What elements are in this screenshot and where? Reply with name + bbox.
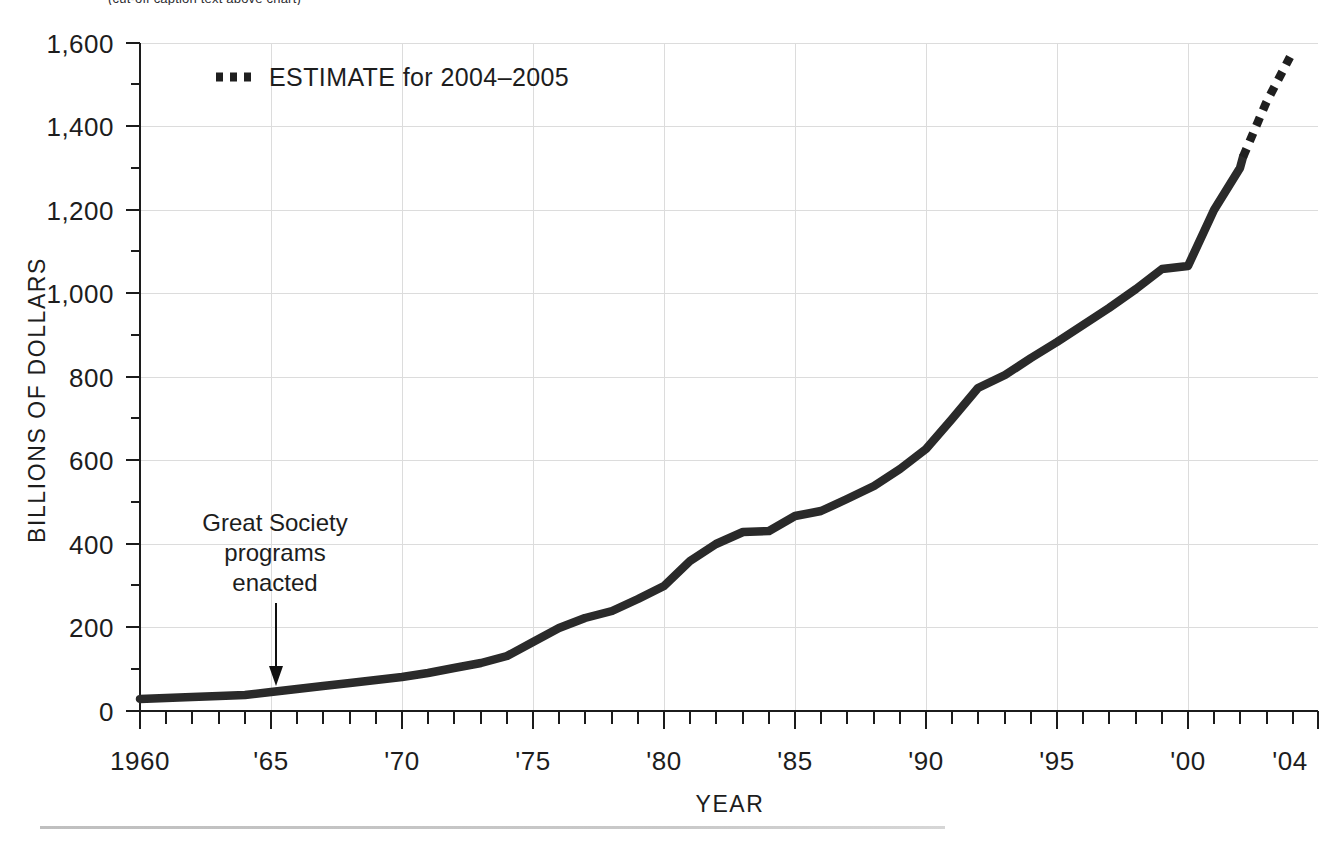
x-tick-label-75: '75 xyxy=(515,746,550,776)
chart-legend: ESTIMATE for 2004–2005 xyxy=(216,63,569,91)
y-tick-label-1200: 1,200 xyxy=(46,196,114,226)
y-axis-major-ticks xyxy=(126,43,140,711)
x-tick-label-85: '85 xyxy=(777,746,812,776)
x-tick-label-90: '90 xyxy=(908,746,943,776)
x-axis-title: YEAR xyxy=(695,791,764,817)
annotation-line-3: enacted xyxy=(232,569,317,596)
annotation-line-2: programs xyxy=(224,539,325,566)
y-tick-label-0: 0 xyxy=(99,697,114,727)
data-series-actual xyxy=(140,157,1243,699)
x-tick-label-80: '80 xyxy=(646,746,681,776)
annotation-line-1: Great Society xyxy=(202,509,347,536)
chart-figure: (cut-off caption text above chart) xyxy=(0,0,1326,850)
y-tick-label-400: 400 xyxy=(69,530,114,560)
y-tick-label-1400: 1,400 xyxy=(46,112,114,142)
data-series-estimate xyxy=(1243,57,1290,157)
y-tick-label-1600: 1,600 xyxy=(46,29,114,59)
x-tick-label-1960: 1960 xyxy=(110,746,170,776)
x-tick-label-70: '70 xyxy=(384,746,419,776)
annotation-great-society: Great Society programs enacted xyxy=(202,509,347,686)
y-tick-label-200: 200 xyxy=(69,613,114,643)
x-tick-label-00: '00 xyxy=(1170,746,1205,776)
x-axis-minor-ticks xyxy=(166,711,1293,724)
x-tick-label-04: '04 xyxy=(1272,746,1307,776)
footer-divider-rule xyxy=(40,826,945,829)
x-tick-label-65: '65 xyxy=(253,746,288,776)
legend-label-estimate: ESTIMATE for 2004–2005 xyxy=(269,63,569,91)
x-axis-major-ticks xyxy=(140,711,1318,729)
y-axis-title: BILLIONS OF DOLLARS xyxy=(24,257,50,543)
y-tick-label-600: 600 xyxy=(69,446,114,476)
line-chart-svg: 1,600 1,400 1,200 1,000 800 600 400 200 … xyxy=(0,0,1326,850)
y-tick-label-800: 800 xyxy=(69,363,114,393)
x-tick-label-95: '95 xyxy=(1039,746,1074,776)
y-tick-label-1000: 1,000 xyxy=(46,279,114,309)
